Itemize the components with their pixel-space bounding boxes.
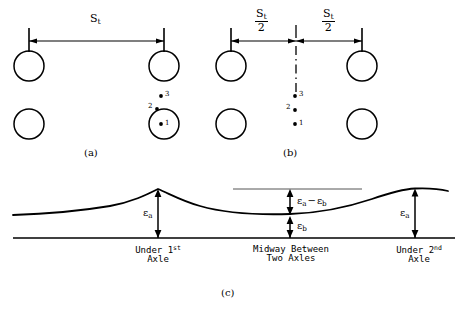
panel-c: [13, 188, 455, 238]
point-label-b-1: 1: [299, 120, 303, 127]
deflection-curve: [13, 188, 448, 215]
label-epsilon-a-minus-epsilon-b: εa−εb: [297, 196, 327, 207]
wheel-b-top-right: [347, 51, 377, 81]
arrow-epsilon-b: [287, 216, 294, 238]
point-a-1: [159, 122, 163, 126]
axis-label-line2: Axle: [108, 255, 208, 264]
wheel-a-top-left: [14, 51, 44, 81]
wheel-a-bot-left: [14, 109, 44, 139]
axis-label-under-2nd-axle: Under 2nd Axle: [369, 245, 459, 264]
label-epsilon-a-left: εa: [143, 208, 152, 219]
point-label-a-3: 3: [165, 91, 169, 98]
axis-label-line2: Axle: [369, 255, 459, 264]
dimension-label-st: St: [90, 13, 101, 26]
dimension-label-st-half-left: St 2: [255, 8, 268, 34]
point-label-a-1: 1: [165, 120, 169, 127]
point-a-2: [155, 107, 159, 111]
caption-panel-a: (a): [84, 148, 98, 158]
axis-label-line2: Two Axles: [235, 254, 347, 263]
axis-label-under-1st-axle: Under 1st Axle: [108, 245, 208, 264]
panel-b: [216, 25, 377, 139]
axis-label-midway: Midway Between Two Axles: [235, 245, 347, 263]
arrow-epsilon-a-minus-b: [287, 189, 294, 215]
point-b-2: [293, 108, 297, 112]
panel-a: [14, 28, 179, 139]
point-label-a-2: 2: [148, 103, 152, 110]
point-b-3: [293, 94, 297, 98]
point-a-3: [159, 94, 163, 98]
wheel-b-top-left: [216, 51, 246, 81]
figure-canvas: [0, 0, 459, 312]
wheel-a-top-right: [149, 51, 179, 81]
dimension-line-st: [29, 28, 164, 52]
label-epsilon-a-right: εa: [400, 208, 409, 219]
point-label-b-3: 3: [299, 91, 303, 98]
arrow-epsilon-a-right: [412, 189, 419, 239]
caption-panel-b: (b): [283, 148, 297, 158]
wheel-b-bot-left: [216, 109, 246, 139]
caption-panel-c: (c): [221, 288, 234, 298]
point-label-b-2: 2: [286, 104, 290, 111]
label-epsilon-b: εb: [297, 221, 307, 232]
point-b-1: [293, 122, 297, 126]
wheel-b-bot-right: [347, 109, 377, 139]
dimension-label-st-half-right: St 2: [322, 8, 335, 34]
wheel-a-bot-right: [149, 109, 179, 139]
arrow-epsilon-a-left: [155, 189, 162, 238]
